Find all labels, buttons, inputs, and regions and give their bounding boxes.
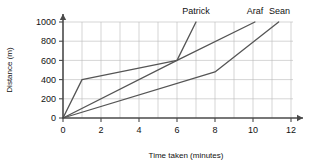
x-tick-labels: 024681012 [60, 125, 296, 135]
y-axis-title: Distance (m) [5, 47, 14, 93]
series-line-araf [63, 22, 255, 118]
x-tick-label: 8 [212, 125, 217, 135]
series-line-sean [63, 22, 279, 118]
series-label-araf: Araf [247, 6, 264, 16]
tick-marks [59, 22, 291, 122]
series-lines [63, 22, 279, 118]
x-tick-label: 2 [98, 125, 103, 135]
series-line-patrick [63, 22, 196, 118]
x-tick-label: 0 [60, 125, 65, 135]
x-tick-label: 6 [174, 125, 179, 135]
y-tick-label: 200 [41, 94, 56, 104]
y-tick-label: 400 [41, 75, 56, 85]
x-tick-label: 10 [248, 125, 258, 135]
y-tick-labels: 02004006008001000 [36, 17, 56, 123]
series-labels: PatrickArafSean [182, 6, 290, 16]
y-tick-label: 1000 [36, 17, 56, 27]
x-tick-label: 12 [286, 125, 296, 135]
series-label-sean: Sean [269, 6, 290, 16]
x-tick-label: 4 [136, 125, 141, 135]
y-axis-arrow [60, 14, 66, 20]
series-label-patrick: Patrick [182, 6, 210, 16]
y-tick-label: 600 [41, 56, 56, 66]
distance-time-chart: 024681012 02004006008001000 PatrickArafS… [0, 0, 311, 163]
x-axis-arrow [297, 115, 303, 121]
x-axis-title: Time taken (minutes) [149, 151, 224, 160]
axes [60, 14, 303, 121]
y-tick-label: 0 [51, 113, 56, 123]
y-tick-label: 800 [41, 36, 56, 46]
